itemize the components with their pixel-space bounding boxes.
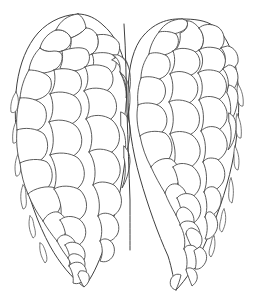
figure-root: [0, 0, 260, 300]
double-cone-drawing: [0, 0, 260, 300]
